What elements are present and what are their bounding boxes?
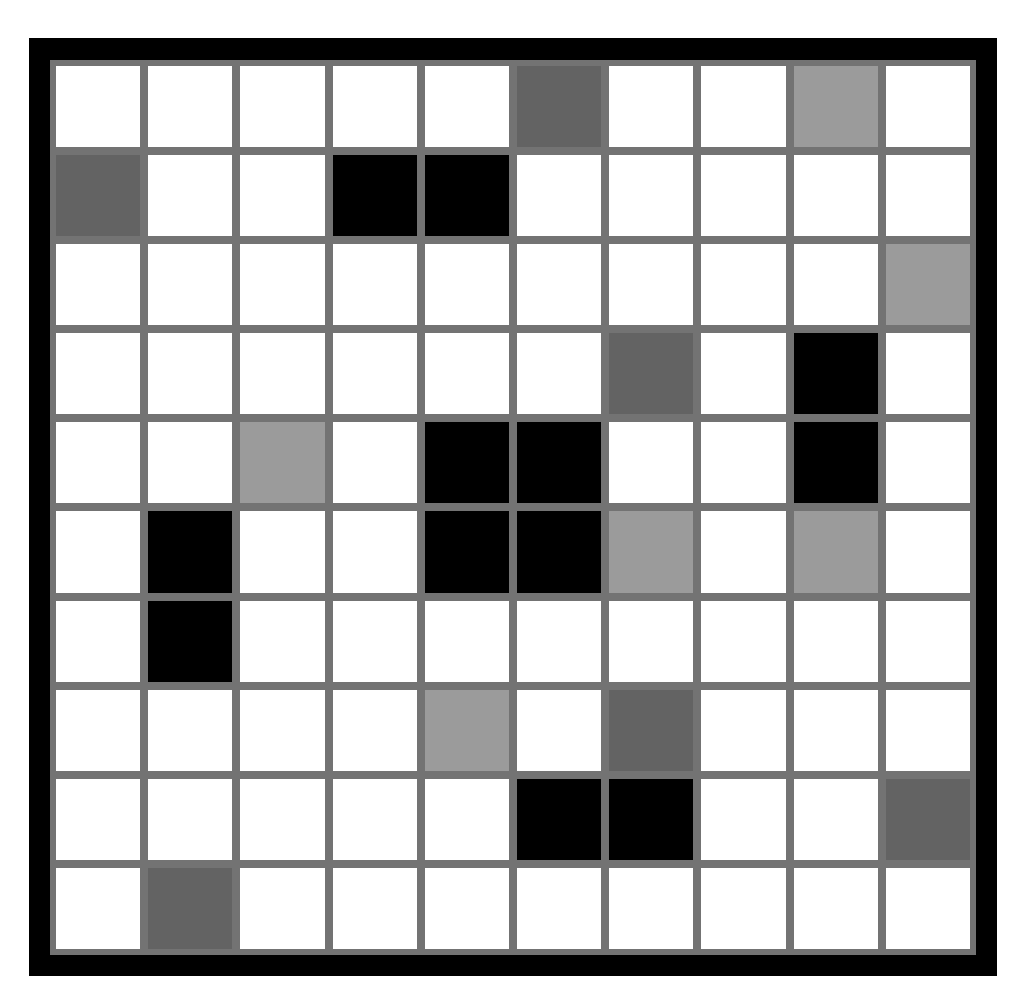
grid-cell-6-9-empty[interactable] [886,601,970,682]
grid-cell-6-5-empty[interactable] [517,601,601,682]
grid-cell-5-6-light-gray[interactable] [609,511,693,592]
grid-cell-0-7-empty[interactable] [701,66,785,147]
grid-cell-2-0-empty[interactable] [56,244,140,325]
grid-cell-5-2-empty[interactable] [240,511,324,592]
grid-cell-4-9-empty[interactable] [886,422,970,503]
grid-cell-9-7-empty[interactable] [701,868,785,949]
grid-cell-9-3-empty[interactable] [333,868,417,949]
grid-cell-5-0-empty[interactable] [56,511,140,592]
grid-cell-9-6-empty[interactable] [609,868,693,949]
grid-cell-6-6-empty[interactable] [609,601,693,682]
grid-cell-2-5-empty[interactable] [517,244,601,325]
grid-cell-7-5-empty[interactable] [517,690,601,771]
grid-cell-7-7-empty[interactable] [701,690,785,771]
grid-cell-6-0-empty[interactable] [56,601,140,682]
grid-cell-7-8-empty[interactable] [794,690,878,771]
grid-cell-6-7-empty[interactable] [701,601,785,682]
grid-cell-3-2-empty[interactable] [240,333,324,414]
grid-cell-0-9-empty[interactable] [886,66,970,147]
grid-cell-7-3-empty[interactable] [333,690,417,771]
grid-cell-0-6-empty[interactable] [609,66,693,147]
grid-cell-3-3-empty[interactable] [333,333,417,414]
grid-cell-4-8-black[interactable] [794,422,878,503]
grid-cell-2-4-empty[interactable] [425,244,509,325]
grid-cell-8-6-black[interactable] [609,779,693,860]
grid-cell-0-4-empty[interactable] [425,66,509,147]
grid-cell-4-0-empty[interactable] [56,422,140,503]
grid-cell-3-0-empty[interactable] [56,333,140,414]
grid-cell-3-8-black[interactable] [794,333,878,414]
grid-cell-9-0-empty[interactable] [56,868,140,949]
grid-cell-3-1-empty[interactable] [148,333,232,414]
grid-cell-0-2-empty[interactable] [240,66,324,147]
grid-cell-7-1-empty[interactable] [148,690,232,771]
grid-cell-6-3-empty[interactable] [333,601,417,682]
grid-cell-5-7-empty[interactable] [701,511,785,592]
grid-cell-6-2-empty[interactable] [240,601,324,682]
grid-cell-5-1-black[interactable] [148,511,232,592]
grid-cell-6-8-empty[interactable] [794,601,878,682]
grid-cell-4-3-empty[interactable] [333,422,417,503]
grid-cell-9-5-empty[interactable] [517,868,601,949]
grid-cell-8-4-empty[interactable] [425,779,509,860]
grid-cell-8-0-empty[interactable] [56,779,140,860]
grid-cell-1-7-empty[interactable] [701,155,785,236]
grid-cell-2-2-empty[interactable] [240,244,324,325]
grid-cell-9-1-dark-gray[interactable] [148,868,232,949]
grid-cell-7-9-empty[interactable] [886,690,970,771]
grid-cell-1-8-empty[interactable] [794,155,878,236]
grid-cell-3-6-dark-gray[interactable] [609,333,693,414]
grid-cell-5-8-light-gray[interactable] [794,511,878,592]
grid-cell-7-6-dark-gray[interactable] [609,690,693,771]
grid-cell-2-7-empty[interactable] [701,244,785,325]
grid-cell-2-8-empty[interactable] [794,244,878,325]
grid-cell-9-4-empty[interactable] [425,868,509,949]
grid-cell-9-9-empty[interactable] [886,868,970,949]
grid-cell-4-2-light-gray[interactable] [240,422,324,503]
grid-cell-8-8-empty[interactable] [794,779,878,860]
grid-cell-1-9-empty[interactable] [886,155,970,236]
grid-cell-4-4-black[interactable] [425,422,509,503]
grid-cell-2-3-empty[interactable] [333,244,417,325]
grid-cell-6-1-black[interactable] [148,601,232,682]
grid-cell-4-5-black[interactable] [517,422,601,503]
grid-cell-3-9-empty[interactable] [886,333,970,414]
grid-cell-8-9-dark-gray[interactable] [886,779,970,860]
grid-cell-1-2-empty[interactable] [240,155,324,236]
grid-cell-8-3-empty[interactable] [333,779,417,860]
grid-cell-5-4-black[interactable] [425,511,509,592]
grid-cell-0-3-empty[interactable] [333,66,417,147]
grid-cell-3-7-empty[interactable] [701,333,785,414]
grid-cell-8-1-empty[interactable] [148,779,232,860]
grid-cell-5-3-empty[interactable] [333,511,417,592]
grid-cell-8-5-black[interactable] [517,779,601,860]
grid-cell-4-7-empty[interactable] [701,422,785,503]
grid-cell-0-8-light-gray[interactable] [794,66,878,147]
grid-cell-0-1-empty[interactable] [148,66,232,147]
grid-cell-6-4-empty[interactable] [425,601,509,682]
grid-cell-9-8-empty[interactable] [794,868,878,949]
grid-cell-0-5-dark-gray[interactable] [517,66,601,147]
grid-cell-2-6-empty[interactable] [609,244,693,325]
grid-cell-9-2-empty[interactable] [240,868,324,949]
grid-cell-1-0-dark-gray[interactable] [56,155,140,236]
grid-cell-1-6-empty[interactable] [609,155,693,236]
grid-cell-2-1-empty[interactable] [148,244,232,325]
grid-cell-4-6-empty[interactable] [609,422,693,503]
grid-cell-5-9-empty[interactable] [886,511,970,592]
grid-cell-5-5-black[interactable] [517,511,601,592]
grid-cell-8-2-empty[interactable] [240,779,324,860]
grid-cell-3-5-empty[interactable] [517,333,601,414]
grid-cell-7-2-empty[interactable] [240,690,324,771]
grid-cell-8-7-empty[interactable] [701,779,785,860]
grid-cell-3-4-empty[interactable] [425,333,509,414]
grid-cell-0-0-empty[interactable] [56,66,140,147]
grid-cell-1-3-black[interactable] [333,155,417,236]
grid-cell-1-1-empty[interactable] [148,155,232,236]
grid-cell-4-1-empty[interactable] [148,422,232,503]
grid-cell-1-5-empty[interactable] [517,155,601,236]
grid-cell-7-0-empty[interactable] [56,690,140,771]
grid-cell-2-9-light-gray[interactable] [886,244,970,325]
grid-cell-1-4-black[interactable] [425,155,509,236]
grid-cell-7-4-light-gray[interactable] [425,690,509,771]
